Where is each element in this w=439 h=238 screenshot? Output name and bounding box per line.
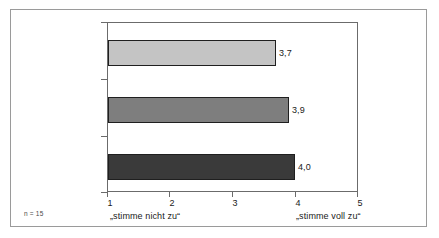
scale-anchor-low: „stimme nicht zu“ — [110, 211, 180, 221]
x-axis-tick — [295, 192, 296, 197]
x-axis-tick — [357, 192, 358, 197]
bar-value-label-frueher: 3,7 — [279, 48, 292, 58]
bar-frueher — [108, 40, 276, 66]
x-axis-label-1: 1 — [107, 198, 112, 208]
chart-figure: Früher Heute Zukunft 3,7 3,9 4,0 1 2 3 4… — [0, 0, 439, 238]
x-axis-label-3: 3 — [232, 198, 237, 208]
x-axis-tick — [232, 192, 233, 197]
bar-value-label-zukunft: 4,0 — [298, 162, 311, 172]
bar-value-label-heute: 3,9 — [292, 105, 305, 115]
x-axis-label-4: 4 — [295, 198, 300, 208]
x-axis-tick — [107, 192, 108, 197]
x-axis-tick — [169, 192, 170, 197]
plot-area: 3,7 3,9 4,0 — [107, 22, 358, 192]
sample-size-note: n = 15 — [24, 210, 43, 217]
scale-anchor-high: „stimme voll zu“ — [296, 211, 361, 221]
bar-heute — [108, 97, 289, 123]
bar-zukunft — [108, 154, 295, 180]
x-axis-label-2: 2 — [169, 198, 174, 208]
x-axis-label-5: 5 — [357, 198, 362, 208]
